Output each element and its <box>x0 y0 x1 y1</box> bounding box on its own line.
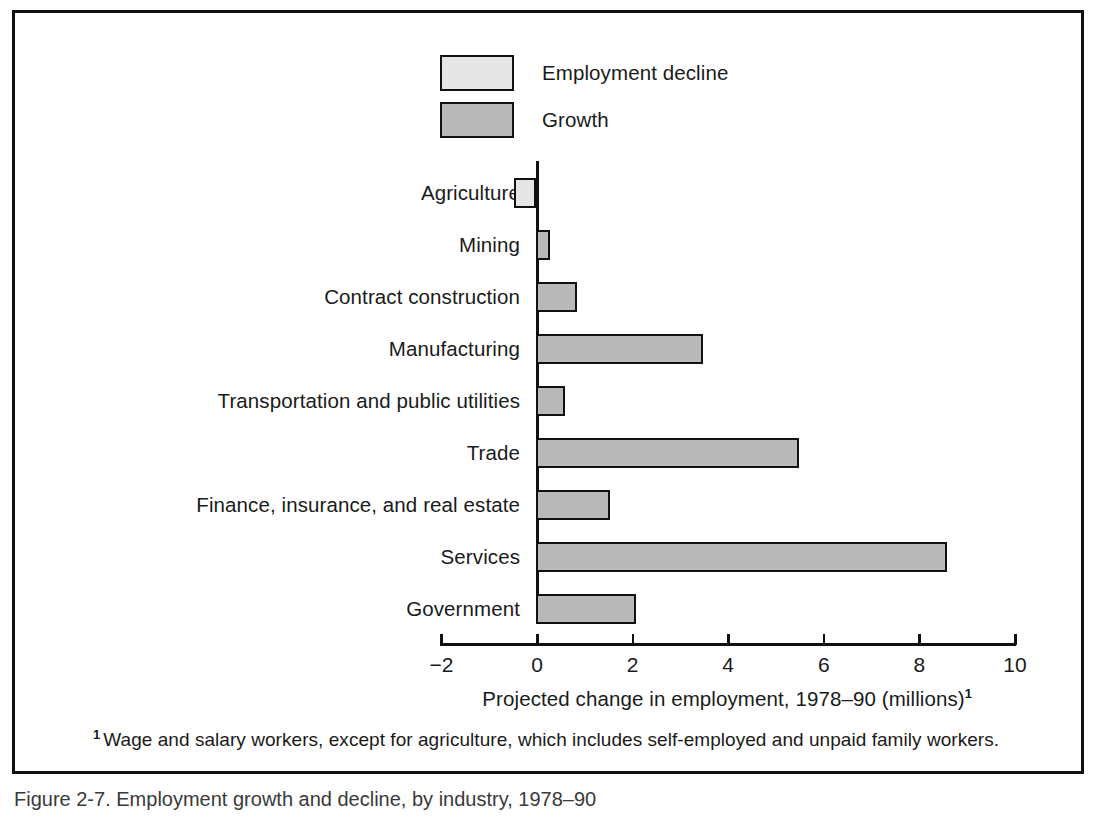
x-axis-tick <box>727 634 730 645</box>
bar <box>514 178 536 208</box>
x-axis-tick <box>1014 634 1017 645</box>
category-label: Mining <box>15 219 520 271</box>
bar-row: Services <box>15 531 1081 583</box>
x-axis-tick-label: 0 <box>531 653 543 677</box>
category-label: Trade <box>15 427 520 479</box>
figure-frame: Employment decline Growth AgricultureMin… <box>12 10 1084 774</box>
bar-row: Government <box>15 583 1081 635</box>
plot-area: Employment decline Growth AgricultureMin… <box>15 13 1081 771</box>
x-axis-tick-label: −2 <box>429 653 453 677</box>
chart-legend: Employment decline Growth <box>440 53 728 147</box>
x-axis-title: Projected change in employment, 1978–90 … <box>440 686 1014 711</box>
legend-entry: Employment decline <box>440 53 728 93</box>
x-axis-tick-label: 8 <box>914 653 926 677</box>
bar-row: Trade <box>15 427 1081 479</box>
x-axis-title-text: Projected change in employment, 1978–90 … <box>482 687 964 710</box>
x-axis-tick <box>823 634 826 645</box>
bar <box>536 542 947 572</box>
category-label: Services <box>15 531 520 583</box>
bar-row: Mining <box>15 219 1081 271</box>
category-label: Government <box>15 583 520 635</box>
bar <box>536 594 636 624</box>
bar-row: Contract construction <box>15 271 1081 323</box>
footnote-marker: 1 <box>93 727 100 742</box>
x-axis-tick <box>536 634 539 645</box>
bar-row: Agriculture <box>15 167 1081 219</box>
legend-label-growth: Growth <box>542 108 609 132</box>
footnote: 1Wage and salary workers, except for agr… <box>93 720 1003 754</box>
category-label: Manufacturing <box>15 323 520 375</box>
x-axis-title-superscript: 1 <box>965 686 972 701</box>
bar <box>536 282 577 312</box>
bar-chart: AgricultureMiningContract constructionMa… <box>15 161 1081 631</box>
x-axis-tick <box>918 634 921 645</box>
x-axis-tick-label: 10 <box>1003 653 1026 677</box>
legend-entry: Growth <box>440 100 728 140</box>
category-label: Transportation and public utilities <box>15 375 520 427</box>
bar <box>536 230 550 260</box>
bar <box>536 334 703 364</box>
legend-label-employment-decline: Employment decline <box>542 61 728 85</box>
category-label: Contract construction <box>15 271 520 323</box>
bar <box>536 386 565 416</box>
legend-swatch-employment-decline <box>440 55 514 91</box>
x-axis-tick <box>440 634 443 645</box>
x-axis-tick-label: 6 <box>818 653 830 677</box>
category-label: Agriculture <box>15 167 520 219</box>
bar-row: Transportation and public utilities <box>15 375 1081 427</box>
bar <box>536 490 610 520</box>
category-label: Finance, insurance, and real estate <box>15 479 520 531</box>
x-axis-tick-label: 4 <box>722 653 734 677</box>
x-axis-tick <box>632 634 635 645</box>
bar-row: Finance, insurance, and real estate <box>15 479 1081 531</box>
footnote-text: Wage and salary workers, except for agri… <box>103 729 999 750</box>
figure-caption: Figure 2-7. Employment growth and declin… <box>14 788 1074 811</box>
bar <box>536 438 799 468</box>
bar-row: Manufacturing <box>15 323 1081 375</box>
x-axis-tick-label: 2 <box>627 653 639 677</box>
legend-swatch-growth <box>440 102 514 138</box>
